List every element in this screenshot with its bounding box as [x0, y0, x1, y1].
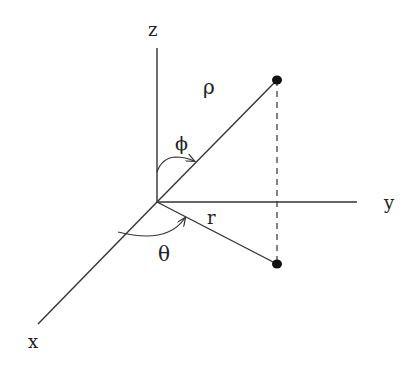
z-axis-label: z	[148, 19, 157, 40]
spherical-coordinates-diagram: z y x ρ ϕ r θ	[0, 0, 419, 369]
theta-label: θ	[158, 242, 170, 266]
x-axis-label: x	[28, 331, 38, 352]
y-axis-label: y	[383, 192, 395, 213]
theta-arc-arrow	[118, 218, 185, 236]
phi-label: ϕ	[175, 132, 188, 154]
r-projection	[157, 202, 277, 264]
point-p	[272, 76, 282, 85]
point-projection	[272, 260, 282, 269]
r-label: r	[207, 207, 216, 228]
rho-label: ρ	[203, 75, 215, 99]
x-axis	[38, 202, 157, 324]
